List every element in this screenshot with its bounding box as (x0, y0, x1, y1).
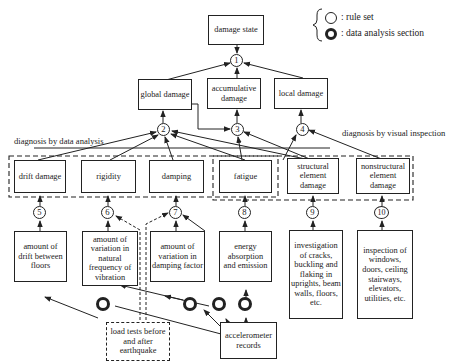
local-damage-box: local damage (274, 78, 328, 109)
damping-factor-variation-box: amount of variation in damping factor (150, 231, 205, 282)
accumulative-damage-box: accumulative damage (207, 78, 261, 109)
load-tests-box: load tests before and after earthquake (106, 322, 170, 361)
data-analysis-legend-icon (325, 28, 337, 40)
nonstructural-element-damage-box: nonstructural element damage (356, 158, 410, 194)
rigidity-box: rigidity (81, 160, 136, 193)
investigation-cracks-box: investigation of cracks, buckling and fl… (289, 230, 343, 319)
rule-set-legend-icon (325, 12, 337, 24)
damage-state-box: damage state (208, 15, 264, 45)
rule-node-10: 10 (374, 206, 389, 219)
rule-node-8: 8 (238, 206, 251, 219)
rule-node-1: 1 (230, 54, 243, 67)
amount-of-drift-box: amount of drift between floors (14, 231, 67, 282)
rule-node-5: 5 (33, 206, 46, 219)
data-analysis-ring-energy (238, 297, 252, 311)
damping-box: damping (149, 160, 204, 193)
rule-node-3: 3 (231, 123, 244, 136)
rule-node-2: 2 (157, 123, 170, 136)
natural-frequency-variation-box: amount of variation in natural frequency… (82, 231, 138, 286)
accelerometer-records-box: accelerometer records (220, 322, 277, 359)
drift-damage-box: drift damage (14, 160, 66, 193)
diagnosis-data-analysis-label: diagnosis by data analysis (14, 136, 104, 146)
inspection-windows-box: inspection of windows, doors, ceiling st… (357, 230, 413, 319)
data-analysis-ring-drift (96, 297, 110, 311)
global-damage-box: global damage (138, 79, 192, 110)
data-analysis-ring-damping (212, 297, 226, 311)
structural-element-damage-box: structural element damage (287, 158, 339, 194)
diagnosis-visual-inspection-label: diagnosis by visual inspection (342, 128, 445, 138)
rule-node-6: 6 (101, 206, 114, 219)
rule-node-9: 9 (306, 206, 319, 219)
rule-node-4: 4 (296, 123, 309, 136)
legend-data-analysis-label: : data analysis section (341, 28, 424, 38)
rule-node-7: 7 (169, 206, 182, 219)
fatigue-box: fatigue (219, 160, 272, 193)
energy-absorption-box: energy absorption and emission (219, 231, 272, 282)
data-analysis-ring-frequency (183, 297, 197, 311)
legend-rule-set-label: : rule set (341, 12, 374, 22)
